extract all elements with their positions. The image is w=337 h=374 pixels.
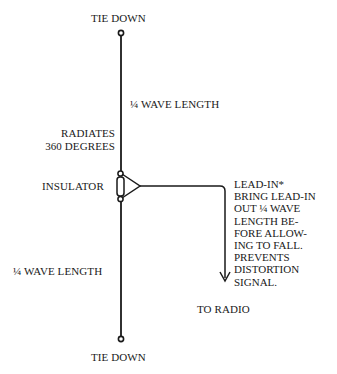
lead-in-note-line: BRING LEAD-IN: [234, 190, 316, 202]
lead-in-note-line: FORE ALLOW-: [234, 227, 316, 239]
insulator-icon: [117, 171, 140, 202]
top-tie-down-ring: [118, 30, 123, 35]
quarter-wave-bottom-label: ¼ WAVE LENGTH: [13, 265, 102, 277]
lead-in-note-line: LEAD-IN*: [234, 178, 316, 190]
to-radio-label: TO RADIO: [197, 303, 250, 315]
tie-down-top-label: TIE DOWN: [91, 12, 146, 24]
insulator-label: INSULATOR: [42, 180, 104, 192]
lead-in-note-line: PREVENTS: [234, 251, 316, 263]
lead-in-cable: [140, 186, 225, 278]
radiates-label-line1: RADIATES: [58, 127, 115, 139]
quarter-wave-top-label: ¼ WAVE LENGTH: [130, 98, 219, 110]
lead-in-note-line: OUT ¼ WAVE: [234, 202, 316, 214]
lead-in-note-line: SIGNAL.: [234, 276, 316, 288]
lead-in-note: LEAD-IN* BRING LEAD-IN OUT ¼ WAVE LENGTH…: [234, 178, 316, 288]
tie-down-bottom-label: TIE DOWN: [91, 351, 146, 363]
bottom-tie-down-ring: [118, 336, 123, 341]
lead-in-note-line: ING TO FALL.: [234, 239, 316, 251]
lead-in-note-line: LENGTH BE-: [234, 215, 316, 227]
radiates-label-line2: 360 DEGREES: [40, 140, 115, 152]
lead-in-note-line: DISTORTION: [234, 263, 316, 275]
